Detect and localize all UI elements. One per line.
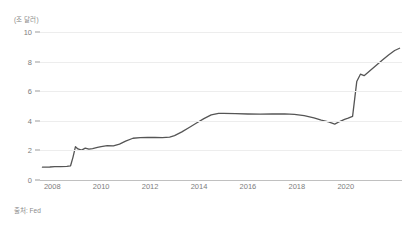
x-tick-2008: 2008	[44, 182, 61, 191]
x-tick-2014: 2014	[191, 182, 208, 191]
y-tick-label: 10	[24, 28, 32, 37]
y-tick-label: 2	[28, 146, 32, 155]
y-axis: 0246810	[0, 32, 40, 180]
x-tick-2020: 2020	[337, 182, 354, 191]
y-tick-label: 0	[28, 176, 32, 185]
line-series-fed-total-assets	[40, 32, 402, 180]
gridline-y-2	[40, 150, 402, 151]
gridline-y-8	[40, 62, 402, 63]
x-axis: 2008201020122014201620182020	[40, 182, 402, 196]
gridline-y-4	[40, 121, 402, 122]
y-tick-10: 10	[24, 28, 40, 37]
x-tick-2010: 2010	[93, 182, 110, 191]
x-tick-2018: 2018	[288, 182, 305, 191]
y-tick-6: 6	[28, 87, 40, 96]
y-tick-label: 8	[28, 57, 32, 66]
plot-area	[40, 32, 402, 180]
gridline-y-10	[40, 32, 402, 33]
x-tick-2012: 2012	[142, 182, 159, 191]
series-path	[42, 48, 399, 167]
gridline-y-6	[40, 91, 402, 92]
y-tick-0: 0	[28, 176, 40, 185]
y-tick-4: 4	[28, 116, 40, 125]
chart-figure: (조 달러) 0246810 2008201020122014201620182…	[0, 0, 415, 226]
y-tick-8: 8	[28, 57, 40, 66]
y-axis-unit-label: (조 달러)	[14, 14, 39, 24]
y-tick-label: 6	[28, 87, 32, 96]
y-tick-2: 2	[28, 146, 40, 155]
gridline-y-0	[40, 180, 402, 181]
x-tick-2016: 2016	[240, 182, 257, 191]
source-note: 출처: Fed	[14, 205, 41, 215]
y-tick-label: 4	[28, 116, 32, 125]
